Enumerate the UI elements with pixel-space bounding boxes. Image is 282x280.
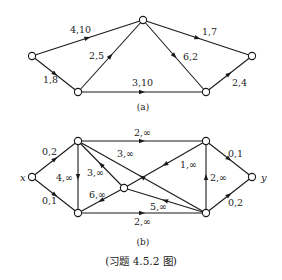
edge-label: 4,∞ <box>56 172 73 183</box>
edge-label: 1,7 <box>202 26 217 37</box>
edge-label: 1,∞ <box>180 159 197 170</box>
edge-label: 6,∞ <box>89 189 106 200</box>
node-label-x: x <box>20 172 26 183</box>
node-tl <box>74 137 81 144</box>
node-x <box>28 173 35 180</box>
arrow-icon <box>139 90 145 94</box>
node-a4 <box>202 88 209 95</box>
arrow-icon <box>139 211 145 215</box>
node-tr <box>202 137 209 144</box>
edge-label: 5,∞ <box>150 201 167 212</box>
arrow-icon <box>84 37 90 41</box>
arrow-icon <box>204 174 208 180</box>
edge-label: 1,8 <box>43 74 58 85</box>
edge-label: 3,∞ <box>87 167 104 178</box>
flow-network-figure: 4,101,82,53,106,21,72,4 (a) 0,20,12,∞4,∞… <box>0 0 282 280</box>
edge-label: 0,1 <box>42 195 57 206</box>
edge-label: 0,2 <box>228 197 243 208</box>
node-a2 <box>74 88 81 95</box>
node-bl <box>74 209 81 216</box>
node-y <box>248 173 255 180</box>
edge-label: 2,4 <box>232 77 247 88</box>
node-a3 <box>139 16 146 23</box>
node-a1 <box>28 52 35 59</box>
node-label-y: y <box>260 172 267 183</box>
edge-label: 0,1 <box>228 148 243 159</box>
caption-a: (a) <box>137 102 149 112</box>
arrow-icon <box>162 161 168 166</box>
edge-label: 3,10 <box>132 77 153 88</box>
caption-b: (b) <box>137 237 150 247</box>
edge-label: 2,∞ <box>134 127 151 138</box>
edge-label: 0,2 <box>42 146 57 157</box>
arrow-icon <box>76 174 80 180</box>
node-a5 <box>248 52 255 59</box>
edge-label: 3,∞ <box>117 148 134 159</box>
edge-label: 4,10 <box>70 24 91 35</box>
node-c <box>120 184 127 191</box>
node-br <box>202 209 209 216</box>
arrow-icon <box>194 35 200 39</box>
network-a: 4,101,82,53,106,21,72,4 <box>28 16 255 95</box>
edge-label: 2,5 <box>89 50 104 61</box>
exercise-caption: (习题 4.5.2 图) <box>105 255 177 267</box>
edge-label: 6,2 <box>183 51 198 62</box>
edge-label: 2,∞ <box>134 216 151 227</box>
network-b: 0,20,12,∞4,∞3,∞3,∞1,∞6,∞5,∞2,∞2,∞0,10,2x… <box>20 127 267 227</box>
arrow-icon <box>139 139 145 143</box>
edge-label: 2,∞ <box>210 172 227 183</box>
